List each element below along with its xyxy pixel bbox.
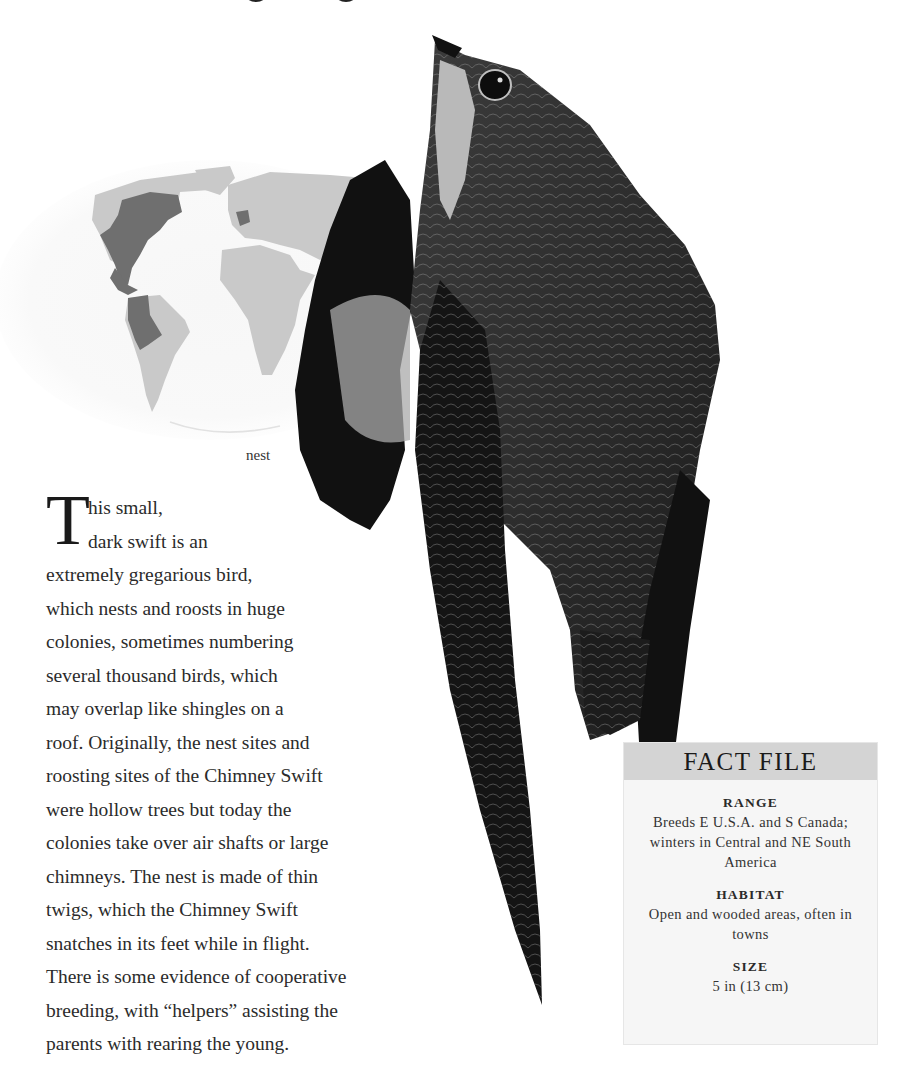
body-line: colonies, sometimes numbering (46, 625, 416, 659)
fact-section-range: RANGE Breeds E U.S.A. and S Canada; wint… (624, 794, 877, 872)
body-line: dark swift is an (46, 525, 416, 559)
body-line: may overlap like shingles on a (46, 692, 416, 726)
body-line: snatches in its feet while in flight. (46, 927, 416, 961)
fact-section-size: SIZE 5 in (13 cm) (624, 958, 877, 996)
body-line: There is some evidence of cooperative (46, 960, 416, 994)
fact-file-title: FACT FILE (624, 743, 877, 780)
body-line: roosting sites of the Chimney Swift (46, 759, 416, 793)
fact-value: Open and wooded areas, often in towns (624, 904, 877, 944)
fact-value: 5 in (13 cm) (624, 976, 877, 996)
fact-section-habitat: HABITAT Open and wooded areas, often in … (624, 886, 877, 944)
article-body: his small, dark swift is an extremely gr… (46, 491, 416, 1061)
fact-file-box: FACT FILE RANGE Breeds E U.S.A. and S Ca… (623, 742, 878, 1045)
body-line: his small, (46, 491, 416, 525)
body-line: breeding, with “helpers” assisting the (46, 994, 416, 1028)
nest-illustration (295, 160, 415, 530)
swift-eye (479, 70, 511, 100)
body-line: chimneys. The nest is made of thin (46, 860, 416, 894)
cropped-title-glyphs (235, 0, 475, 4)
body-line: roof. Originally, the nest sites and (46, 726, 416, 760)
body-line: parents with rearing the young. (46, 1027, 416, 1061)
fact-heading: HABITAT (624, 886, 877, 904)
fact-heading: SIZE (624, 958, 877, 976)
body-line: extremely gregarious bird, (46, 558, 416, 592)
body-line: which nests and roosts in huge (46, 592, 416, 626)
fact-value: Breeds E U.S.A. and S Canada; winters in… (624, 812, 877, 872)
nest-label: nest (246, 447, 270, 464)
body-line: several thousand birds, which (46, 659, 416, 693)
body-line: colonies take over air shafts or large (46, 826, 416, 860)
fact-heading: RANGE (624, 794, 877, 812)
body-line: twigs, which the Chimney Swift (46, 893, 416, 927)
body-line: were hollow trees but today the (46, 793, 416, 827)
